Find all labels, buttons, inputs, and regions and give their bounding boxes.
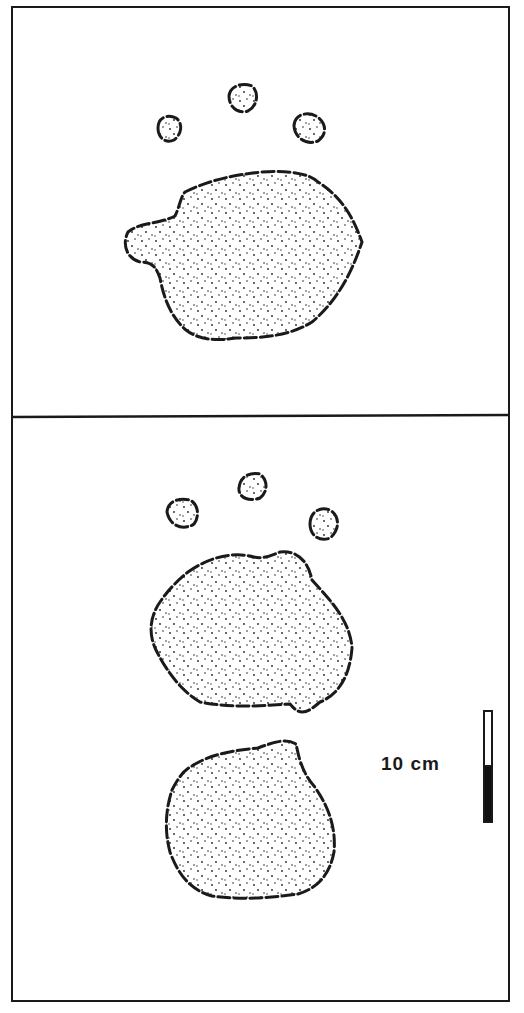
top-digit-right — [294, 114, 325, 143]
bottom-digit-middle — [239, 474, 266, 500]
panel-divider — [12, 415, 509, 417]
bottom-digit-left — [167, 499, 197, 527]
scale-bar — [484, 711, 492, 822]
bottom-digit-right — [310, 509, 338, 539]
bottom-front-pad — [151, 552, 352, 712]
scale-bar-label: 10 cm — [381, 753, 440, 775]
top-digit-middle — [229, 84, 257, 111]
top-panel — [125, 84, 362, 339]
top-pad — [125, 171, 362, 339]
top-digit-left — [158, 116, 181, 141]
bottom-panel — [151, 474, 352, 899]
footprint-figure — [0, 0, 524, 1013]
bottom-hind-print — [166, 741, 334, 898]
